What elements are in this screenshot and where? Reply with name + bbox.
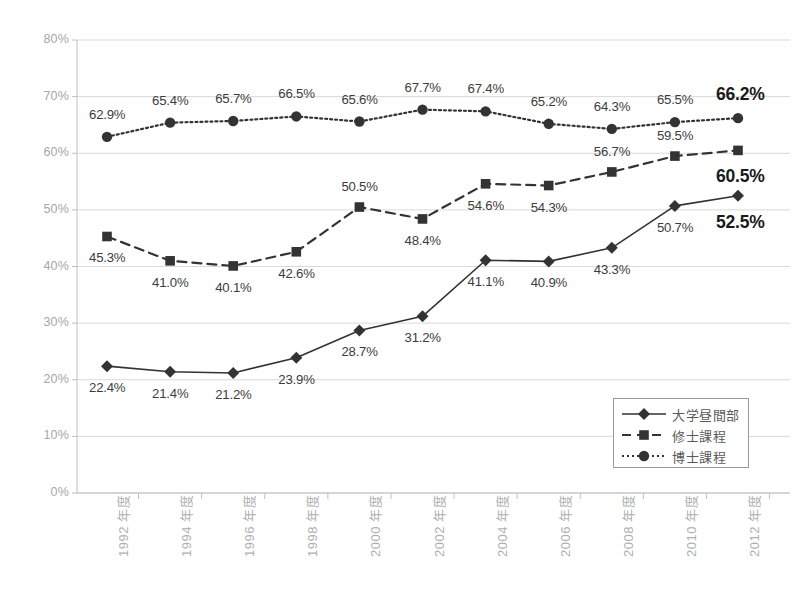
chart-container: 0%10%20%30%40%50%60%70%80% 1992 年度1994 年…: [0, 0, 807, 608]
data-point-label: 23.9%: [278, 372, 314, 387]
data-point-label: 50.7%: [657, 220, 693, 235]
data-point-marker: [733, 113, 743, 123]
data-point-marker: [290, 352, 302, 364]
data-point-marker: [164, 366, 176, 378]
data-point-label: 41.1%: [468, 274, 504, 289]
data-point-label: 41.0%: [152, 275, 188, 290]
data-point-marker: [417, 104, 427, 114]
y-axis-tick-label: 60%: [25, 145, 69, 159]
data-point-label: 43.3%: [594, 262, 630, 277]
legend-item-1[interactable]: 修士課程: [614, 424, 750, 446]
data-point-marker: [543, 255, 555, 267]
y-axis-tick-label: 30%: [25, 315, 69, 329]
chart-legend: 大学昼間部修士課程博士課程: [613, 398, 749, 468]
legend-marker-icon: [620, 446, 668, 466]
series-line-1: [107, 150, 738, 266]
y-axis-tick-label: 0%: [25, 485, 69, 499]
data-point-marker: [353, 324, 365, 336]
data-point-label: 52.5%: [716, 212, 765, 233]
x-axis-tick-label: 1992 年度: [113, 495, 132, 557]
data-point-marker: [102, 132, 112, 142]
data-point-label: 21.4%: [152, 386, 188, 401]
data-point-marker: [481, 179, 491, 189]
x-axis-tick-label: 2000 年度: [365, 495, 384, 557]
legend-marker-icon: [620, 425, 668, 445]
data-point-label: 64.3%: [594, 99, 630, 114]
data-point-label: 48.4%: [405, 233, 441, 248]
data-point-label: 54.3%: [531, 200, 567, 215]
legend-label: 博士課程: [672, 447, 726, 466]
data-point-label: 40.1%: [215, 280, 251, 295]
data-point-label: 31.2%: [405, 330, 441, 345]
data-point-label: 65.5%: [657, 92, 693, 107]
data-point-marker: [228, 116, 238, 126]
data-point-label: 54.6%: [468, 198, 504, 213]
data-point-label: 59.5%: [657, 128, 693, 143]
data-point-marker: [418, 214, 428, 224]
legend-marker-icon: [620, 404, 668, 424]
x-axis-tick-label: 1994 年度: [176, 495, 195, 557]
y-axis-tick-label: 80%: [25, 32, 69, 46]
data-point-marker: [292, 247, 302, 257]
data-point-label: 66.2%: [716, 84, 765, 105]
y-axis-tick-label: 50%: [25, 202, 69, 216]
data-point-label: 22.4%: [89, 380, 125, 395]
x-axis-tick-label: 2010 年度: [681, 495, 700, 557]
data-point-label: 21.2%: [215, 387, 251, 402]
data-point-marker: [355, 202, 365, 212]
data-point-marker: [480, 106, 490, 116]
data-point-marker: [607, 167, 617, 177]
legend-label: 修士課程: [672, 426, 726, 445]
data-point-label: 62.9%: [89, 107, 125, 122]
x-axis-tick-label: 2004 年度: [492, 495, 511, 557]
data-point-marker: [354, 116, 364, 126]
data-point-marker: [607, 124, 617, 134]
data-point-marker: [544, 181, 554, 191]
data-point-marker: [606, 242, 618, 254]
data-point-label: 65.2%: [531, 94, 567, 109]
data-point-label: 50.5%: [341, 179, 377, 194]
data-point-label: 40.9%: [531, 275, 567, 290]
data-point-label: 60.5%: [716, 166, 765, 187]
data-point-marker: [732, 190, 744, 202]
y-axis-tick-label: 20%: [25, 372, 69, 386]
data-point-marker: [670, 117, 680, 127]
data-point-marker: [227, 367, 239, 379]
data-point-label: 65.4%: [152, 93, 188, 108]
x-axis-tick-label: 1998 年度: [302, 495, 321, 557]
data-point-marker: [165, 256, 175, 266]
x-axis-tick-label: 2012 年度: [744, 495, 763, 557]
data-point-marker: [670, 151, 680, 161]
data-point-marker: [291, 111, 301, 121]
data-point-label: 45.3%: [89, 250, 125, 265]
x-axis-tick-label: 2008 年度: [618, 495, 637, 557]
x-axis-tick-label: 1996 年度: [239, 495, 258, 557]
data-point-marker: [101, 360, 113, 372]
y-axis-tick-label: 10%: [25, 428, 69, 442]
data-point-label: 28.7%: [341, 344, 377, 359]
data-point-label: 67.7%: [405, 80, 441, 95]
data-point-label: 56.7%: [594, 144, 630, 159]
y-axis-tick-label: 40%: [25, 259, 69, 273]
data-point-marker: [544, 119, 554, 129]
data-point-label: 67.4%: [468, 81, 504, 96]
legend-item-2[interactable]: 博士課程: [614, 445, 750, 467]
data-point-marker: [733, 146, 743, 156]
data-point-label: 65.7%: [215, 91, 251, 106]
data-point-label: 65.6%: [341, 92, 377, 107]
data-point-label: 42.6%: [278, 266, 314, 281]
y-axis-tick-label: 70%: [25, 89, 69, 103]
data-point-label: 66.5%: [278, 86, 314, 101]
x-axis-tick-label: 2002 年度: [429, 495, 448, 557]
legend-label: 大学昼間部: [672, 405, 740, 424]
legend-item-0[interactable]: 大学昼間部: [614, 403, 750, 425]
data-point-marker: [228, 261, 238, 271]
x-axis-tick-label: 2006 年度: [555, 495, 574, 557]
data-point-marker: [102, 232, 112, 242]
data-point-marker: [165, 117, 175, 127]
